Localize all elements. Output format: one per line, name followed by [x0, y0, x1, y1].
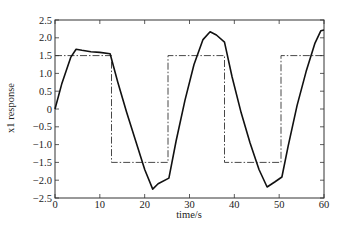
y-tick-label: 1.5	[39, 50, 52, 61]
x-tick-label: 60	[319, 199, 330, 210]
x-tick-label: 50	[274, 199, 285, 210]
x-tick-label: 20	[139, 199, 150, 210]
x-axis-label: time/s	[176, 209, 202, 220]
y-tick-label: 2.0	[39, 32, 52, 43]
y-tick-label: 0.5	[39, 86, 52, 97]
y-axis: 2.52.01.51.00.50−0.5−1.0−1.5−2.0−2.5	[33, 15, 324, 204]
line-chart: 2.52.01.51.00.50−0.5−1.0−1.5−2.0−2.5 010…	[0, 0, 340, 227]
y-tick-label: 1.0	[39, 68, 52, 79]
reference-line	[55, 56, 324, 163]
y-tick-label: 2.5	[39, 15, 52, 26]
y-tick-label: 0	[47, 104, 52, 115]
x-axis: 0102030405060	[52, 20, 329, 210]
x-tick-label: 40	[229, 199, 240, 210]
x-tick-label: 10	[95, 199, 106, 210]
x-tick-label: 0	[52, 199, 57, 210]
y-tick-label: −1.0	[33, 139, 52, 150]
response-line	[55, 30, 324, 189]
y-tick-label: −2.0	[33, 175, 52, 186]
series-group	[55, 30, 324, 189]
y-tick-label: −1.5	[33, 157, 52, 168]
y-tick-label: −0.5	[33, 121, 52, 132]
y-tick-label: −2.5	[33, 193, 52, 204]
y-axis-label: x1 response	[5, 83, 16, 133]
